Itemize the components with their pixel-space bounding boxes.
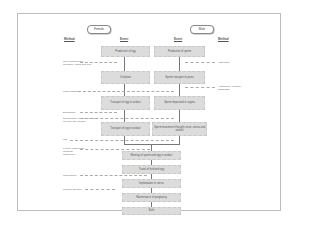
connector-left-7	[80, 175, 147, 176]
left-method-1: Oral contraceptive, injectable, patch an…	[63, 60, 91, 66]
connector-left-3	[80, 112, 117, 113]
header-event-left: Event	[120, 37, 128, 41]
shared-event-1: Meeting of sperm and egg in oviduct	[122, 151, 181, 160]
male-label: Male	[190, 25, 214, 34]
connector-left-5	[70, 140, 174, 141]
shared-event-5: Birth	[122, 207, 181, 215]
male-event-1: Production of sperm	[154, 46, 205, 57]
male-event-3: Sperm deposited in vagina	[154, 96, 205, 110]
connector-left-6	[80, 149, 150, 150]
connector-left-1	[80, 62, 117, 63]
female-event-4: Transport of egg in oviduct	[101, 122, 150, 136]
male-event-4: Sperm movement through cervix, uterus an…	[152, 122, 207, 136]
female-event-3: Transport of egg to oviduct	[101, 96, 150, 110]
female-event-2: Ovulation	[101, 71, 150, 84]
header-event-right: Event	[174, 37, 182, 41]
header-method-right: Method	[218, 37, 229, 41]
header-method-left: Method	[64, 37, 75, 41]
connector-left-2	[78, 91, 174, 92]
female-label: Female	[87, 25, 111, 34]
shared-event-2: Travel of fertilized egg	[122, 165, 181, 174]
connector-right-1	[185, 62, 215, 63]
right-method-2: Abstinence, condom, withdrawal	[218, 85, 242, 91]
connector-left-4	[80, 118, 174, 119]
shared-event-4: Maintenance of pregnancy	[122, 193, 181, 202]
connector-left-8	[85, 189, 115, 190]
connector-right-2	[185, 87, 215, 88]
right-method-1: Vasectomy	[218, 61, 242, 64]
female-event-1: Production of egg	[101, 46, 150, 57]
merge-line	[124, 144, 180, 145]
male-event-2: Sperm transport to penis	[154, 71, 205, 84]
shared-event-3: Implantation in uterus	[122, 179, 181, 188]
